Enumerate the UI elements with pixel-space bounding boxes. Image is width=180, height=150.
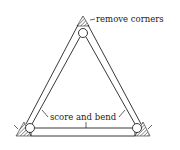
bend-circle-top	[79, 29, 88, 38]
label-score-and-bend: score and bend	[50, 113, 116, 122]
bend-circle-right	[133, 124, 142, 133]
corner-top-hatched	[77, 16, 89, 26]
label-remove-corners: remove corners	[96, 15, 164, 24]
bend-circle-left	[26, 124, 35, 133]
